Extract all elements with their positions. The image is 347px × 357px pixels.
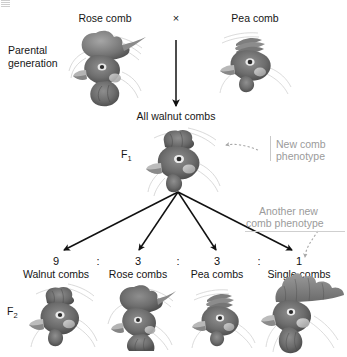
arrow-f1-to-pea bbox=[178, 192, 216, 250]
single-comb-head-art-f2 bbox=[258, 272, 346, 354]
annotation-new-comb-line2: phenotype bbox=[276, 150, 325, 162]
leader-new-comb-phenotype bbox=[226, 144, 258, 150]
f1-generation-label: F1 bbox=[121, 148, 132, 166]
parental-generation-line1: Parental bbox=[8, 44, 58, 57]
cross-symbol: × bbox=[173, 12, 179, 24]
f2-label-pea-combs: Pea combs bbox=[191, 268, 244, 280]
f2-generation-subscript: 2 bbox=[13, 311, 17, 320]
walnut-comb-head-art-f2 bbox=[24, 280, 100, 350]
arrow-f1-to-walnut bbox=[64, 192, 178, 250]
scan-artifact bbox=[1, 0, 10, 7]
figure-canvas: Parental generation Rose comb Pea comb × bbox=[0, 0, 347, 357]
pea-comb-head-art-parent bbox=[212, 24, 298, 98]
ratio-separator-1: : bbox=[96, 255, 99, 267]
parental-generation-label: Parental generation bbox=[8, 44, 58, 69]
arrow-f1-to-rose bbox=[139, 192, 178, 250]
ratio-separator-2: : bbox=[176, 255, 179, 267]
f1-generation-subscript: 1 bbox=[127, 154, 131, 163]
annotation-rule-another-new bbox=[245, 231, 345, 232]
f2-generation-label: F2 bbox=[7, 305, 18, 323]
f2-ratio-walnut: 9 bbox=[53, 255, 59, 267]
f2-ratio-pea: 3 bbox=[214, 255, 220, 267]
rose-comb-head-art-parent bbox=[62, 26, 148, 104]
ratio-separator-3: : bbox=[257, 255, 260, 267]
f2-ratio-single: 1 bbox=[296, 255, 302, 267]
rose-comb-head-art-f2 bbox=[104, 281, 176, 351]
annotation-another-new-line1: Another new bbox=[259, 205, 318, 217]
f2-label-walnut-combs: Walnut combs bbox=[23, 268, 89, 280]
annotation-new-comb-line1: New comb bbox=[276, 138, 326, 150]
parent-label-rose-comb: Rose comb bbox=[78, 12, 131, 24]
parent-label-pea-comb: Pea comb bbox=[231, 12, 278, 24]
f2-label-rose-combs: Rose combs bbox=[109, 268, 167, 280]
walnut-comb-head-art-f1 bbox=[140, 122, 224, 196]
f1-label-all-walnut-combs: All walnut combs bbox=[137, 110, 216, 122]
annotation-another-new-line2: comb phenotype bbox=[246, 217, 324, 229]
pea-comb-head-art-f2 bbox=[186, 283, 258, 349]
leader-another-new-comb-phenotype bbox=[305, 231, 318, 257]
annotation-rule-new-comb bbox=[270, 136, 271, 161]
parental-generation-line2: generation bbox=[8, 57, 58, 70]
f2-ratio-rose: 3 bbox=[135, 255, 141, 267]
